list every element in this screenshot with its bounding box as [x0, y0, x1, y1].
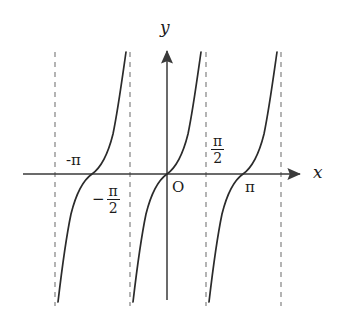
tangent-branch-right-outer — [209, 52, 277, 302]
origin-label: O — [172, 180, 184, 195]
minus-sign: − — [92, 192, 105, 207]
fraction-numerator: π — [211, 134, 224, 149]
fraction-denominator: 2 — [211, 150, 224, 165]
tangent-branch-left-outer — [58, 52, 126, 302]
tick-label-pi-over-2: π 2 — [211, 134, 224, 165]
y-axis-label: y — [160, 19, 170, 36]
fraction-numerator: π — [107, 184, 120, 199]
tick-label-neg-pi: -π — [66, 153, 81, 168]
fraction-pi-over-2-positive: π 2 — [211, 134, 224, 165]
x-axis-label: x — [313, 164, 323, 181]
graph-canvas — [0, 0, 348, 330]
fraction-denominator: 2 — [107, 200, 120, 215]
fraction-pi-over-2: π 2 — [107, 184, 120, 215]
neg-pi-over-2-expression: − π 2 — [92, 184, 120, 215]
tick-label-pi: π — [245, 180, 255, 195]
tick-label-neg-pi-over-2: − π 2 — [92, 184, 120, 215]
tangent-function-figure: y x O -π − π 2 π 2 π — [0, 0, 348, 330]
